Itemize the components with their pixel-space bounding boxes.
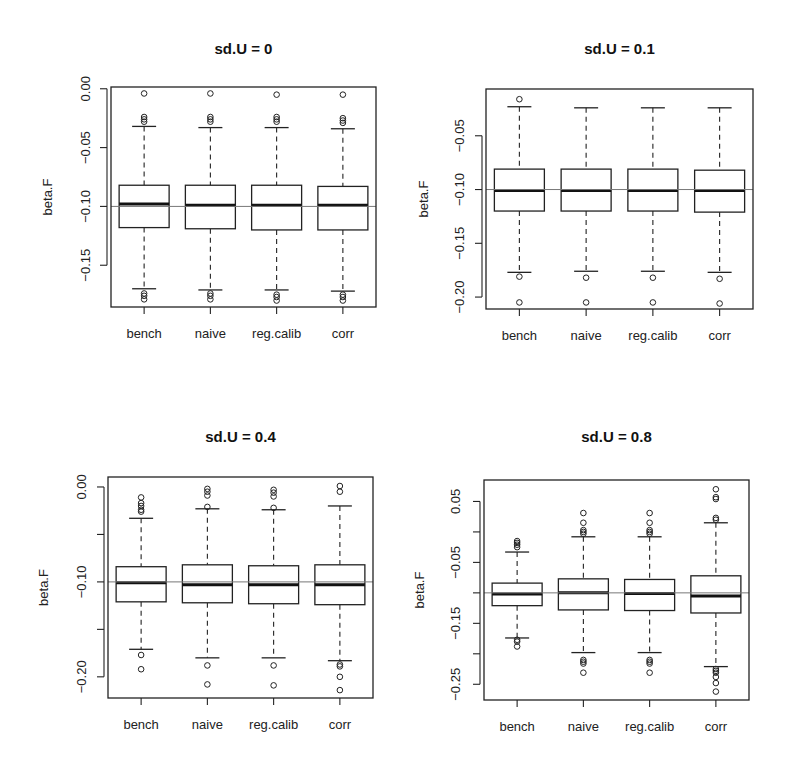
outlier-point <box>141 297 147 303</box>
y-tick-label: −0.05 <box>78 131 93 164</box>
x-tick-label: naive <box>571 328 602 343</box>
outlier-point <box>271 494 277 500</box>
y-tick-label: −0.05 <box>448 546 463 579</box>
outlier-point <box>205 663 211 669</box>
outlier-point <box>650 275 656 281</box>
y-tick-label: −0.10 <box>78 190 93 223</box>
outlier-point <box>205 682 211 688</box>
y-tick-label: −0.10 <box>74 565 89 598</box>
panel-0: sd.U = 0beta.F0.00−0.05−0.10−0.15benchna… <box>40 40 376 341</box>
box-iqr <box>185 185 235 229</box>
box-naive <box>561 108 611 305</box>
box-iqr <box>558 579 608 610</box>
x-tick-label: bench <box>126 326 161 341</box>
outlier-point <box>138 666 144 672</box>
y-tick-label: −0.15 <box>448 607 463 640</box>
box-reg.calib <box>252 92 302 303</box>
x-tick-label: naive <box>568 719 599 734</box>
outlier-point <box>337 483 343 489</box>
box-corr <box>315 483 365 693</box>
box-corr <box>318 92 368 303</box>
outlier-point <box>208 297 214 303</box>
y-tick-label: −0.10 <box>452 173 467 206</box>
x-tick-label: bench <box>502 328 537 343</box>
y-tick-label: 0.00 <box>74 474 89 499</box>
box-corr <box>691 486 741 694</box>
box-iqr <box>625 579 675 610</box>
x-tick-label: naive <box>192 717 223 732</box>
x-tick-label: reg.calib <box>628 328 677 343</box>
outlier-point <box>517 274 523 280</box>
outlier-point <box>138 652 144 658</box>
box-corr <box>695 108 745 306</box>
outlier-point <box>337 687 343 693</box>
x-tick-label: corr <box>329 717 352 732</box>
outlier-point <box>713 680 719 686</box>
outlier-point <box>208 91 214 97</box>
outlier-point <box>517 300 523 306</box>
x-tick-label: corr <box>332 326 355 341</box>
box-iqr <box>252 185 302 230</box>
y-tick-label: 0.05 <box>448 489 463 514</box>
outlier-point <box>581 510 587 516</box>
outlier-point <box>205 493 211 499</box>
outlier-point <box>517 96 523 102</box>
outlier-point <box>650 300 656 306</box>
y-axis-label: beta.F <box>40 179 55 216</box>
box-naive <box>182 486 232 687</box>
outlier-point <box>337 489 343 495</box>
box-bench <box>116 495 166 672</box>
x-tick-label: reg.calib <box>625 719 674 734</box>
boxplot-figure: sd.U = 0beta.F0.00−0.05−0.10−0.15benchna… <box>0 0 801 767</box>
outlier-point <box>647 510 653 516</box>
outlier-point <box>337 674 343 680</box>
outlier-point <box>271 663 277 669</box>
outlier-point <box>647 520 653 526</box>
y-tick-label: −0.20 <box>452 281 467 314</box>
box-iqr <box>318 186 368 230</box>
outlier-point <box>581 670 587 676</box>
panel-2: sd.U = 0.4beta.F0.00−0.10−0.20benchnaive… <box>36 428 373 732</box>
outlier-point <box>717 276 723 282</box>
box-naive <box>185 91 235 302</box>
x-tick-label: bench <box>123 717 158 732</box>
outlier-point <box>647 670 653 676</box>
outlier-point <box>583 275 589 281</box>
box-reg.calib <box>628 108 678 305</box>
x-tick-label: bench <box>499 719 534 734</box>
outlier-point <box>717 301 723 307</box>
outlier-point <box>271 683 277 689</box>
y-tick-label: −0.05 <box>452 119 467 152</box>
outlier-point <box>141 91 147 97</box>
y-tick-label: −0.15 <box>78 249 93 282</box>
y-tick-label: −0.20 <box>74 660 89 693</box>
panel-title: sd.U = 0.1 <box>584 40 654 57</box>
panel-title: sd.U = 0.4 <box>205 428 276 445</box>
x-tick-label: reg.calib <box>249 717 298 732</box>
y-tick-label: 0.00 <box>78 76 93 101</box>
x-tick-label: corr <box>708 328 731 343</box>
outlier-point <box>713 689 719 695</box>
box-bench <box>494 96 544 305</box>
box-iqr <box>691 576 741 613</box>
x-tick-label: naive <box>195 326 226 341</box>
x-tick-label: corr <box>705 719 728 734</box>
y-axis-label: beta.F <box>412 572 427 609</box>
outlier-point <box>340 92 346 98</box>
y-axis-label: beta.F <box>36 569 51 606</box>
y-tick-label: −0.25 <box>448 668 463 701</box>
y-tick-label: −0.15 <box>452 227 467 260</box>
outlier-point <box>274 92 280 98</box>
y-axis-label: beta.F <box>416 181 431 218</box>
box-bench <box>492 538 542 649</box>
outlier-point <box>340 298 346 304</box>
x-tick-label: reg.calib <box>252 326 301 341</box>
outlier-point <box>581 520 587 526</box>
outlier-point <box>583 300 589 306</box>
box-reg.calib <box>249 487 299 688</box>
panel-3: sd.U = 0.8beta.F0.05−0.05−0.15−0.25bench… <box>412 428 749 734</box>
box-bench <box>119 91 169 302</box>
outlier-point <box>713 486 719 492</box>
panel-1: sd.U = 0.1beta.F−0.05−0.10−0.15−0.20benc… <box>416 40 753 343</box>
panel-title: sd.U = 0.8 <box>581 428 651 445</box>
